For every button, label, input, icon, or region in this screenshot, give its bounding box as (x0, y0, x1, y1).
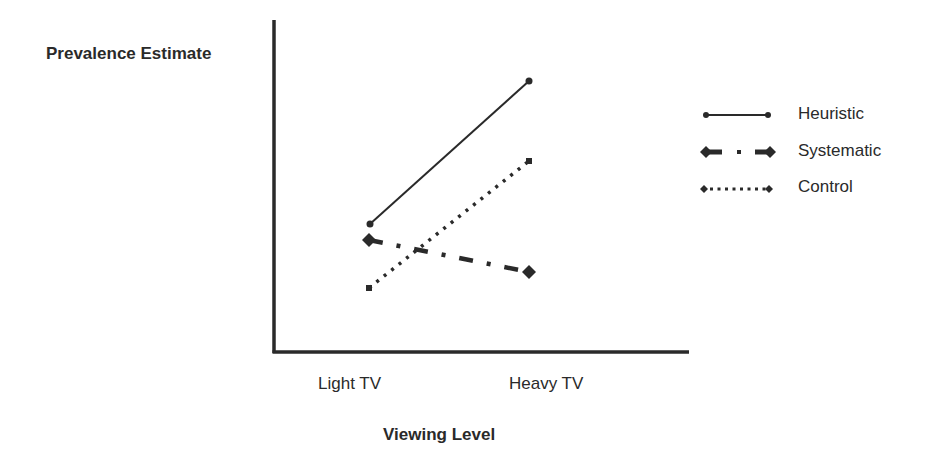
square-marker-icon (526, 158, 532, 164)
diamond-marker-icon (522, 265, 536, 279)
series-heuristic (367, 78, 533, 228)
square-marker-icon (366, 285, 372, 291)
series-control (366, 158, 532, 291)
chart-plot-area (0, 0, 944, 467)
legend-swatch-heuristic (703, 112, 771, 118)
legend-swatch-systematic (700, 146, 776, 158)
circle-marker-icon (526, 78, 533, 85)
series-systematic (362, 233, 536, 279)
legend-swatch-control (700, 185, 773, 193)
circle-marker-icon (367, 221, 374, 228)
diamond-marker-icon (362, 233, 376, 247)
